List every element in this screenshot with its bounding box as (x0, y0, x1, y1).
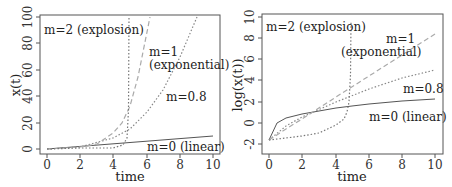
left-x-axis (47, 154, 213, 158)
right-ytick-2: 2 (243, 98, 257, 106)
left-ytick-0: 0 (21, 145, 35, 153)
right-ytick-8: 8 (243, 34, 257, 42)
right-anno-m0: m=0 (linear) (369, 110, 447, 124)
right-xtick-10: 10 (427, 158, 442, 172)
right-xtick-2: 2 (298, 158, 306, 172)
left-y-axis (36, 17, 40, 149)
right-ytick-10: 10 (243, 9, 257, 24)
right-series-m2 (269, 22, 351, 140)
right-anno-m2: m=2 (explosion) (266, 20, 366, 34)
left-xtick-8: 8 (176, 158, 184, 172)
left-xtick-10: 10 (205, 158, 220, 172)
right-chart: 0 2 4 6 8 10 time -2 0 2 4 6 8 10 log(x(… (230, 9, 447, 184)
right-x-axis (269, 154, 435, 158)
left-anno-m1: m=1 (149, 45, 178, 59)
right-ytick-4: 4 (243, 76, 257, 84)
left-anno-m0: m=0 (linear) (147, 140, 225, 154)
left-xtick-0: 0 (43, 158, 51, 172)
left-ytick-20: 20 (21, 115, 35, 130)
left-anno-m2: m=2 (explosion) (44, 23, 144, 37)
right-ytick-0: 0 (243, 119, 257, 127)
left-ytick-80: 80 (21, 35, 35, 50)
right-xtick-8: 8 (398, 158, 406, 172)
right-xtick-0: 0 (265, 158, 273, 172)
right-y-axis (258, 17, 262, 144)
left-chart: 0 2 4 6 8 10 time 0 20 40 60 80 100 x(t) (8, 6, 229, 184)
left-x-axis-title: time (115, 169, 145, 184)
left-xtick-2: 2 (76, 158, 84, 172)
right-ytick-6: 6 (243, 55, 257, 63)
right-y-axis-title: log(x(t)) (230, 58, 245, 111)
right-anno-m1-sub: (exponential) (341, 45, 421, 59)
left-ytick-40: 40 (21, 88, 35, 103)
right-anno-m08: m=0.8 (403, 82, 444, 96)
right-anno-m1: m=1 (386, 32, 415, 46)
left-ytick-100: 100 (21, 6, 35, 29)
left-anno-m1-sub: (exponential) (149, 58, 229, 72)
left-y-axis-title: x(t) (8, 74, 23, 97)
left-anno-m08: m=0.8 (166, 90, 207, 104)
right-ytick-neg2: -2 (243, 138, 257, 150)
right-x-axis-title: time (337, 169, 367, 184)
figure: 0 2 4 6 8 10 time 0 20 40 60 80 100 x(t) (0, 0, 452, 187)
right-series-m08 (269, 70, 435, 140)
left-ytick-60: 60 (21, 62, 35, 77)
